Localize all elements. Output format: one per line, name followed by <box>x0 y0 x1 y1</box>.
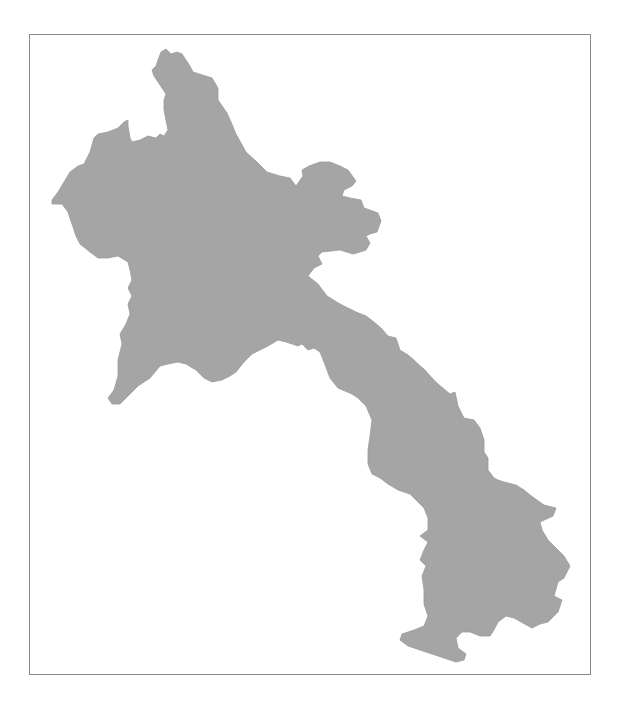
map-canvas <box>0 0 623 711</box>
country-shape-laos <box>52 49 570 662</box>
